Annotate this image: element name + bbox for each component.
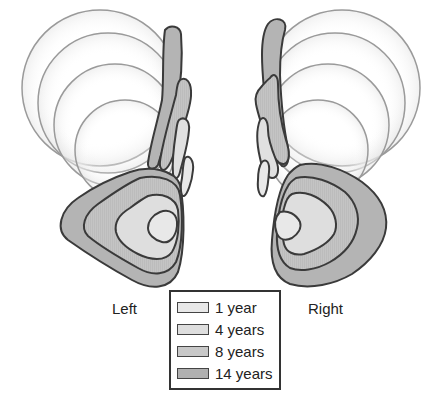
legend-swatch-14-years (177, 368, 209, 379)
legend-item-8-years: 8 years (177, 340, 273, 362)
right-strip-1y (258, 160, 269, 196)
legend-label: 14 years (215, 365, 273, 382)
legend-item-14-years: 14 years (177, 362, 273, 384)
left-nested-shapes (61, 169, 184, 287)
legend: 1 year 4 years 8 years 14 years (169, 290, 281, 390)
right-side-label: Right (308, 300, 343, 317)
legend-swatch-8-years (177, 346, 209, 357)
left-side-label: Left (112, 300, 137, 317)
diagram-stage: Left Right 1 year 4 years 8 years 14 yea… (0, 0, 434, 409)
legend-label: 1 year (215, 299, 257, 316)
right-nested-shapes (272, 164, 387, 287)
legend-label: 4 years (215, 321, 264, 338)
legend-label: 8 years (215, 343, 264, 360)
legend-item-4-years: 4 years (177, 318, 273, 340)
legend-swatch-1-year (177, 302, 209, 313)
legend-item-1-year: 1 year (177, 296, 273, 318)
legend-swatch-4-years (177, 324, 209, 335)
